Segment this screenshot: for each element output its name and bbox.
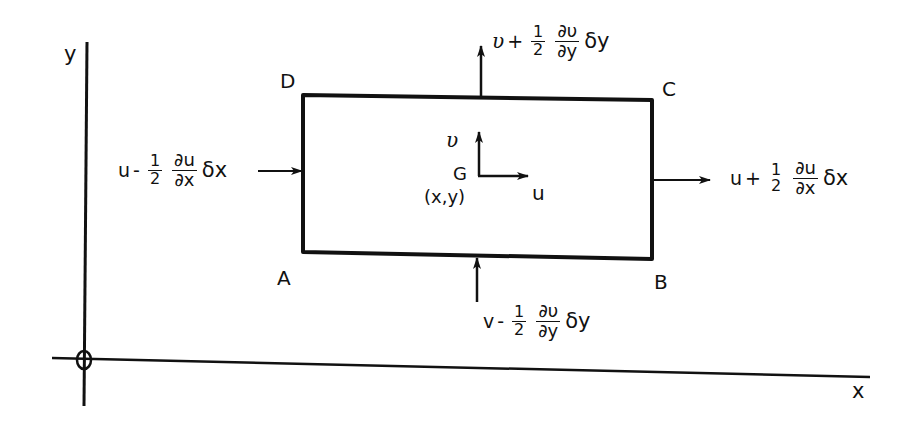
left-coefficient: 1 2: [148, 153, 162, 188]
left-operator: -: [133, 159, 140, 181]
bottom-coefficient: 1 2: [512, 304, 526, 339]
right-increment: δx: [823, 166, 848, 190]
element-rectangle: [303, 95, 652, 259]
center-coords-label: (x,y): [424, 188, 465, 206]
right-operator: +: [745, 167, 761, 189]
top-operator: +: [507, 30, 523, 52]
corner-label-b: B: [654, 272, 668, 292]
x-axis: [52, 358, 870, 377]
top-increment: δy: [584, 29, 609, 53]
x-axis-label: x: [852, 381, 864, 402]
bottom-increment: δy: [565, 309, 590, 333]
right-coefficient: 1 2: [769, 162, 783, 196]
top-face-expression: υ + 1 2 ∂υ ∂y δy: [492, 22, 610, 61]
center-point-label: G: [453, 165, 467, 183]
right-face-expression: u + 1 2 ∂u ∂x δx: [730, 159, 848, 198]
right-base: u: [730, 167, 742, 189]
right-derivative: ∂u ∂x: [793, 159, 818, 198]
bottom-base: v: [483, 310, 494, 332]
top-base: υ: [492, 29, 504, 53]
corner-label-a: A: [277, 268, 291, 288]
center-v-label: υ: [446, 130, 458, 150]
center-u-label: u: [532, 183, 545, 203]
left-derivative: ∂u ∂x: [172, 151, 197, 190]
top-coefficient: 1 2: [531, 24, 545, 59]
diagram-canvas: [0, 0, 910, 428]
top-derivative: ∂υ ∂y: [555, 22, 579, 61]
y-axis-label: y: [64, 44, 76, 65]
corner-label-d: D: [280, 71, 295, 91]
corner-label-c: C: [662, 79, 676, 99]
bottom-operator: -: [497, 310, 504, 332]
left-increment: δx: [202, 158, 227, 182]
left-face-expression: u - 1 2 ∂u ∂x δx: [118, 151, 227, 190]
bottom-derivative: ∂υ ∂y: [536, 302, 560, 341]
bottom-face-expression: v - 1 2 ∂υ ∂y δy: [483, 302, 591, 341]
left-base: u: [118, 159, 130, 181]
